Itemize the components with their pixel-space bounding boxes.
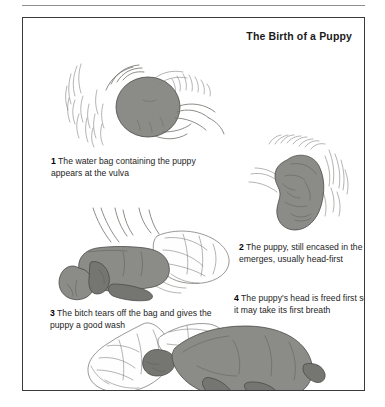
figure-puppy-in-bag-emerging (247, 130, 365, 236)
caption-2-number: 2 (239, 242, 244, 252)
caption-3-number: 3 (50, 308, 55, 318)
top-divider-rule (22, 5, 365, 6)
caption-1-number: 1 (51, 156, 56, 166)
illustration-plate: The Birth of a Puppy (22, 17, 365, 391)
figure-bitch-tearing-bag (53, 208, 243, 308)
caption-3: 3 The bitch tears off the bag and gives … (50, 308, 216, 331)
caption-4-number: 4 (234, 293, 239, 303)
caption-2-text: The puppy, still encased in the bag, eme… (239, 242, 365, 264)
caption-3-text: The bitch tears off the bag and gives th… (50, 308, 212, 330)
figure-water-bag-at-vulva (59, 60, 229, 152)
caption-4: 4 The puppy's head is freed first so tha… (234, 293, 365, 316)
caption-1-text: The water bag containing the puppy appea… (51, 156, 196, 178)
caption-2: 2 The puppy, still encased in the bag, e… (239, 242, 365, 265)
caption-4-text: The puppy's head is freed first so that … (234, 293, 365, 315)
caption-1: 1 The water bag containing the puppy app… (51, 156, 211, 179)
page-title: The Birth of a Puppy (246, 30, 352, 42)
